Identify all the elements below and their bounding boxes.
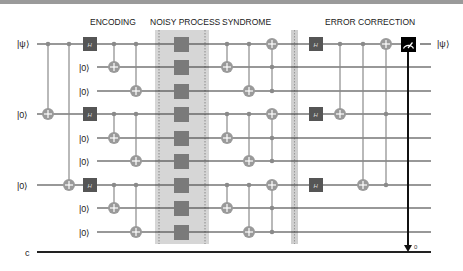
quantum-circuit: ENCODING NOISY PROCESS SYNDROME ERROR CO…	[0, 0, 463, 271]
classical-label: c	[25, 248, 30, 258]
input-label-q5: |0⟩	[79, 157, 90, 167]
input-label-q6: |0⟩	[17, 181, 28, 191]
output-label-psi: |ψ⟩	[437, 39, 450, 49]
section-label-syndrome: SYNDROME	[222, 17, 271, 27]
input-label-psi: |ψ⟩	[17, 39, 30, 49]
input-label-q3: |0⟩	[17, 110, 28, 120]
barrier-syndrome-correction	[291, 30, 298, 244]
section-label-noisy: NOISY PROCESS	[150, 17, 221, 27]
section-label-encoding: ENCODING	[90, 17, 136, 27]
input-label-q7: |0⟩	[79, 204, 90, 214]
input-label-q2: |0⟩	[79, 87, 90, 97]
noise-gates	[174, 37, 189, 240]
svg-text:H: H	[88, 183, 93, 189]
svg-text:H: H	[88, 112, 93, 118]
svg-text:H: H	[314, 183, 319, 189]
input-label-q4: |0⟩	[79, 134, 90, 144]
section-label-correction: ERROR CORRECTION	[325, 17, 415, 27]
input-label-q1: |0⟩	[79, 63, 90, 73]
input-label-q8: |0⟩	[79, 228, 90, 238]
measurement-gate	[401, 37, 416, 252]
svg-text:H: H	[88, 42, 93, 48]
pre-encoding-cnots	[42, 42, 75, 191]
svg-text:H: H	[314, 112, 319, 118]
svg-text:H: H	[314, 42, 319, 48]
measure-bit-label: 0	[414, 244, 418, 250]
quantum-wires	[37, 44, 431, 232]
